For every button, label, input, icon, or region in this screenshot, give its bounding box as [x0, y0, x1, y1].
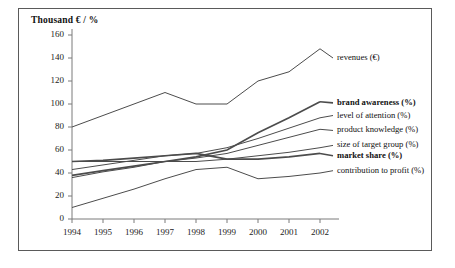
y-tick-label: 80: [38, 121, 64, 131]
legend-leader-line: [320, 171, 333, 173]
x-tick-label: 1995: [86, 227, 120, 237]
y-axis-ticks: [68, 35, 72, 219]
series-line: [72, 167, 320, 207]
legend-label: contribution to profit (%): [337, 166, 424, 175]
x-tick-label: 2001: [272, 227, 306, 237]
x-tick-label: 1994: [55, 227, 89, 237]
legend-leader-line: [320, 116, 333, 118]
y-tick-label: 120: [38, 75, 64, 85]
legend-label: size of target group (%): [337, 140, 418, 149]
legend-label: product knowledge (%): [337, 125, 418, 134]
plot-area: 0204060801001201401601994199519961997199…: [19, 9, 433, 252]
legend-label: revenues (€): [337, 53, 380, 62]
x-tick-label: 2000: [241, 227, 275, 237]
x-axis-ticks: [72, 219, 320, 223]
y-tick-label: 60: [38, 144, 64, 154]
x-tick-label: 1997: [148, 227, 182, 237]
legend-label: brand awareness (%): [337, 98, 416, 107]
x-tick-label: 1996: [117, 227, 151, 237]
series-line: [72, 49, 320, 127]
axes: [72, 29, 339, 219]
legend-leader-line: [320, 49, 333, 58]
x-tick-label: 2002: [303, 227, 337, 237]
series-group: [72, 49, 333, 208]
legend-leader-line: [320, 153, 333, 155]
y-tick-label: 140: [38, 52, 64, 62]
y-tick-label: 0: [38, 213, 64, 223]
legend-leader-line: [320, 102, 333, 103]
legend-leader-line: [320, 129, 333, 130]
legend-leader-line: [320, 145, 333, 147]
legend-label: level of attention (%): [337, 111, 410, 120]
y-tick-label: 100: [38, 98, 64, 108]
x-tick-label: 1999: [210, 227, 244, 237]
y-tick-label: 20: [38, 190, 64, 200]
chart-frame: Thousand € / % 0204060801001201401601994…: [18, 8, 432, 251]
y-tick-label: 160: [38, 29, 64, 39]
legend-label: market share (%): [337, 151, 402, 160]
y-tick-label: 40: [38, 167, 64, 177]
x-tick-label: 1998: [179, 227, 213, 237]
